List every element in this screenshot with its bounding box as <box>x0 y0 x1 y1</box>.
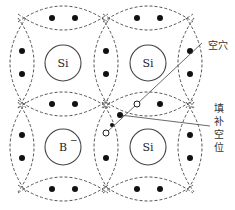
svg-text:−: − <box>70 135 78 145</box>
atom-b-bottom-left: B− <box>45 129 81 165</box>
bond-arc-vertical <box>94 18 118 108</box>
electron-dot <box>187 155 193 161</box>
bond-arc-horizontal <box>103 92 193 116</box>
electron-dot <box>157 15 163 21</box>
electron-dot <box>19 155 25 161</box>
atom-si-bottom-right: Si <box>130 129 166 165</box>
electron-dot <box>103 48 109 54</box>
electron-dot <box>19 132 25 138</box>
bond-arc-vertical <box>10 102 34 192</box>
svg-text:Si: Si <box>142 57 154 70</box>
fill-label-1: 填 <box>214 102 224 114</box>
hole-icon <box>103 130 109 136</box>
electron-dot <box>49 15 55 21</box>
electron-dot <box>103 71 109 77</box>
electron-dot <box>72 15 78 21</box>
hole-label: 空穴 <box>208 39 228 51</box>
bond-arc-vertical <box>94 102 118 192</box>
svg-text:Si: Si <box>142 141 154 154</box>
electron-dot <box>19 71 25 77</box>
electron-dot <box>72 186 78 192</box>
annotations: 空穴 填 补 空 位 <box>208 39 228 153</box>
covalent-bond-arcs <box>10 6 202 201</box>
electron-dot <box>19 48 25 54</box>
svg-text:Si: Si <box>57 57 69 70</box>
electron-dot <box>134 186 140 192</box>
atom-si-top-right: Si <box>130 45 166 81</box>
bond-arc-horizontal <box>18 177 108 201</box>
electron-dot <box>134 15 140 21</box>
electron-dot <box>110 123 114 127</box>
fill-label-2: 补 <box>214 115 224 127</box>
atom-nuclei: SiSiB−Si <box>45 45 166 165</box>
electron-dot <box>157 186 163 192</box>
hole-icon <box>134 101 140 107</box>
electron-dot <box>72 101 78 107</box>
bond-arc-horizontal <box>18 92 108 116</box>
bond-arc-vertical <box>10 18 34 108</box>
semiconductor-lattice-diagram: SiSiB−Si 空穴 填 补 空 位 <box>0 0 235 210</box>
fill-label-3: 空 <box>214 128 224 140</box>
valence-electrons <box>19 15 193 192</box>
electron-dot <box>187 48 193 54</box>
electron-dot <box>49 101 55 107</box>
svg-text:B: B <box>59 141 67 154</box>
bond-arc-vertical <box>178 102 202 192</box>
electron-dot <box>187 132 193 138</box>
fill-label-4: 位 <box>214 141 224 153</box>
bond-arc-horizontal <box>103 177 193 201</box>
electron-dot <box>157 101 163 107</box>
bond-arc-horizontal <box>103 6 193 30</box>
atom-si-top-left: Si <box>45 45 81 81</box>
electron-dot <box>103 155 109 161</box>
electron-dot <box>187 71 193 77</box>
electron-dot <box>49 186 55 192</box>
electron-dot <box>117 112 123 118</box>
bond-arc-horizontal <box>18 6 108 30</box>
migration-path-line <box>106 104 137 133</box>
bond-arc-vertical <box>178 18 202 108</box>
